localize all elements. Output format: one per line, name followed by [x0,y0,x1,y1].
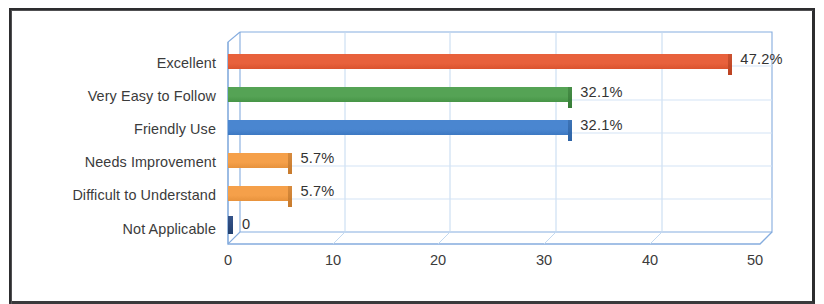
bar-end-cap [288,153,292,174]
bar-end-cap [288,186,292,207]
xtick-40: 40 [642,252,658,268]
bar-end-cap [568,120,572,141]
bar-front-face [228,120,568,135]
category-label-difficult-to-understand: Difficult to Understand [18,187,216,203]
bar-excellent[interactable] [228,54,728,69]
bar-friendly-use[interactable] [228,120,568,135]
bar-front-face [228,87,568,102]
data-label-very-easy-to-follow: 32.1% [580,84,622,100]
value-axis-tick-labels: 0 10 20 30 40 50 [0,252,824,276]
bar-very-easy-to-follow[interactable] [228,87,568,102]
xtick-20: 20 [430,252,446,268]
bar-not-applicable[interactable] [228,216,233,234]
category-label-not-applicable: Not Applicable [18,221,216,237]
bar-difficult-to-understand[interactable] [228,186,288,201]
xtick-0: 0 [224,252,232,268]
plot-area: 47.2% 32.1% 32.1% [228,32,758,244]
category-label-needs-improvement: Needs Improvement [18,154,216,170]
bar-end-cap [568,87,572,108]
data-label-needs-improvement: 5.7% [300,150,334,166]
data-label-difficult-to-understand: 5.7% [300,183,334,199]
data-label-excellent: 47.2% [740,51,782,67]
data-label-friendly-use: 32.1% [580,117,622,133]
category-axis-labels: Excellent Very Easy to Follow Friendly U… [18,38,216,243]
xtick-30: 30 [536,252,552,268]
category-label-very-easy-to-follow: Very Easy to Follow [18,88,216,104]
bar-needs-improvement[interactable] [228,153,288,168]
bar-front-face [228,216,233,234]
bar-end-cap [728,54,732,75]
data-label-not-applicable: 0 [242,216,250,232]
bar-front-face [228,54,728,69]
xtick-50: 50 [747,252,763,268]
bar-front-face [228,186,288,201]
xtick-10: 10 [325,252,341,268]
bar-front-face [228,153,288,168]
category-label-excellent: Excellent [18,55,216,71]
category-label-friendly-use: Friendly Use [18,121,216,137]
